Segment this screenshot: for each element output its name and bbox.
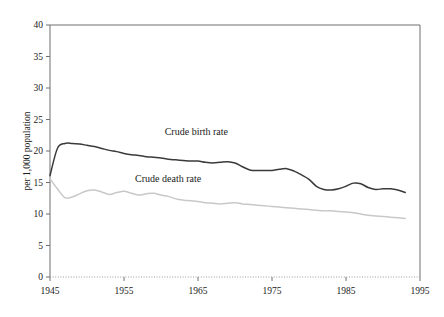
y-tick-label: 15 (34, 178, 44, 188)
y-tick-label: 40 (34, 20, 44, 30)
line-chart: 0510152025303540 19451955196519751985199… (0, 0, 444, 317)
x-tick-label: 1945 (41, 286, 60, 296)
x-tick-label: 1975 (263, 286, 282, 296)
x-tick-label: 1955 (115, 286, 134, 296)
y-tick-label: 0 (38, 272, 43, 282)
y-axis-title: per 1,000 population (22, 111, 32, 190)
y-tick-label: 30 (34, 83, 44, 93)
y-tick-label: 20 (34, 146, 44, 156)
chart-background (0, 0, 444, 317)
chart-figure: 0510152025303540 19451955196519751985199… (0, 0, 444, 317)
x-tick-label: 1965 (189, 286, 208, 296)
series-label-crude-death-rate: Crude death rate (135, 173, 202, 184)
y-tick-label: 10 (34, 209, 44, 219)
y-tick-label: 5 (38, 241, 43, 251)
y-tick-label: 25 (34, 115, 44, 125)
x-tick-label: 1995 (411, 286, 430, 296)
x-tick-label: 1985 (337, 286, 356, 296)
y-tick-label: 35 (34, 52, 44, 62)
series-label-crude-birth-rate: Crude birth rate (165, 126, 229, 137)
